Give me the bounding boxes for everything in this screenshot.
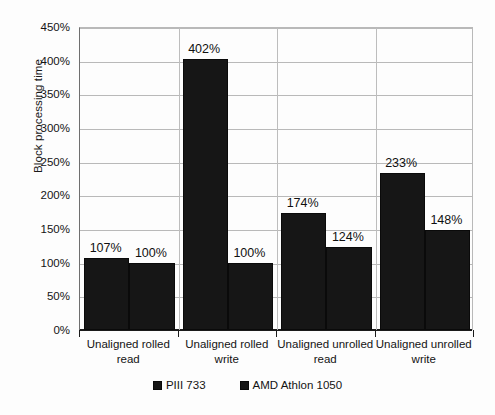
bar — [84, 258, 129, 330]
y-tick-label: 0% — [0, 324, 70, 336]
y-tick-label: 400% — [0, 55, 70, 67]
bar-chart-figure: Block processing time 0%50%100%150%200%2… — [0, 0, 495, 415]
x-category-label-line: write — [368, 352, 480, 367]
plot-area — [79, 27, 473, 330]
bar-value-label: 233% — [385, 156, 417, 170]
gridline-350 — [80, 95, 472, 96]
bar-value-label: 124% — [332, 230, 364, 244]
legend-swatch-icon — [153, 381, 162, 390]
legend-item[interactable]: PIII 733 — [153, 379, 206, 391]
gridline-450 — [80, 28, 472, 29]
bar-value-label: 148% — [430, 213, 462, 227]
x-category-label: Unaligned unrolledread — [269, 337, 381, 366]
x-category-label-line: read — [72, 352, 184, 367]
bar-value-label: 100% — [233, 246, 265, 260]
y-tick-label: 450% — [0, 21, 70, 33]
bar — [183, 59, 228, 330]
x-category-label-line: write — [171, 352, 283, 367]
y-tick-label: 300% — [0, 122, 70, 134]
x-category-label: Unaligned rolledwrite — [171, 337, 283, 366]
x-category-label-line: Unaligned rolled — [171, 337, 283, 352]
y-tick-label: 250% — [0, 156, 70, 168]
x-category-label: Unaligned unrolledwrite — [368, 337, 480, 366]
x-category-label-line: Unaligned rolled — [72, 337, 184, 352]
bar-value-label: 100% — [135, 246, 167, 260]
bar-value-label: 174% — [287, 196, 319, 210]
bar-value-label: 402% — [188, 42, 220, 56]
x-tick-mark — [276, 330, 277, 337]
x-tick-mark — [375, 330, 376, 337]
x-category-label: Unaligned rolledread — [72, 337, 184, 366]
bar — [228, 263, 273, 330]
gridline-400 — [80, 62, 472, 63]
x-tick-mark — [178, 330, 179, 337]
bar — [281, 213, 326, 330]
x-category-label-line: read — [269, 352, 381, 367]
legend-swatch-icon — [240, 381, 249, 390]
category-separator — [277, 28, 278, 330]
bar-value-label: 107% — [90, 241, 122, 255]
x-category-label-line: Unaligned unrolled — [368, 337, 480, 352]
y-tick-label: 50% — [0, 290, 70, 302]
legend-item-label: AMD Athlon 1050 — [253, 379, 343, 391]
x-tick-mark — [79, 330, 80, 337]
bar — [129, 263, 174, 330]
x-category-label-line: Unaligned unrolled — [269, 337, 381, 352]
bar — [380, 173, 425, 330]
legend-item[interactable]: AMD Athlon 1050 — [240, 379, 343, 391]
chart-legend: PIII 733AMD Athlon 1050 — [0, 379, 495, 391]
category-separator — [179, 28, 180, 330]
gridline-300 — [80, 129, 472, 130]
legend-item-label: PIII 733 — [166, 379, 206, 391]
y-tick-label: 100% — [0, 257, 70, 269]
y-tick-label: 150% — [0, 223, 70, 235]
y-tick-label: 200% — [0, 189, 70, 201]
bar — [326, 247, 371, 330]
bar — [425, 230, 470, 330]
category-separator — [376, 28, 377, 330]
x-tick-mark — [473, 330, 474, 337]
y-tick-label: 350% — [0, 88, 70, 100]
